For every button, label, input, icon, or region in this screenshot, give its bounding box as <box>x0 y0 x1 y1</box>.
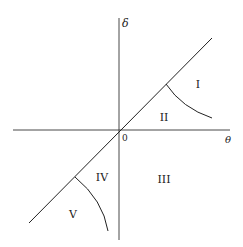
region-label-III: III <box>157 173 170 186</box>
delta-axis-label: δ <box>122 17 129 30</box>
boundary-arc-upper <box>166 84 212 118</box>
region-label-IV: IV <box>96 171 109 184</box>
region-label-V: V <box>68 208 78 221</box>
origin-label: 0 <box>122 133 128 143</box>
region-label-II: II <box>160 111 169 124</box>
region-label-I: I <box>196 78 200 91</box>
diagonal-line <box>29 38 212 223</box>
boundary-arc-lower <box>75 177 108 231</box>
phase-diagram: δ θ 0 I II III IV V <box>0 0 243 247</box>
theta-axis-label: θ <box>225 134 231 145</box>
